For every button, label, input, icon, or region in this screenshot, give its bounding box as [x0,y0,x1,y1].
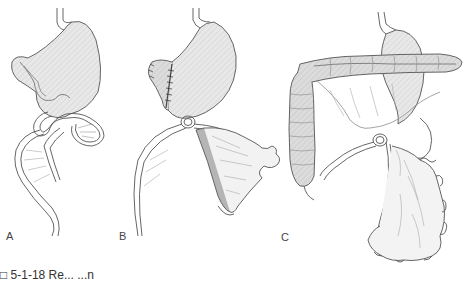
panel-label-b: B [119,230,126,242]
panel-b-drawing [134,8,280,236]
panel-a-drawing [12,8,104,236]
figure-caption-fragment: □ 5-1-18 Re... ...n [0,268,94,282]
panel-label-c: C [281,231,289,243]
panel-c-drawing [289,12,462,262]
panel-label-a: A [6,230,14,242]
